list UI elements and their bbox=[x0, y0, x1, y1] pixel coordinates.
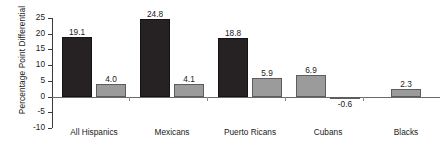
x-category-label-blacks: Blacks bbox=[394, 127, 418, 137]
bar-puerto-ricans-dark: 18.8 bbox=[218, 38, 248, 97]
bar-value-puerto-ricans-light: 5.9 bbox=[261, 68, 273, 78]
bar-value-puerto-ricans-dark: 18.8 bbox=[225, 28, 241, 38]
y-tick-label-20: 20 bbox=[36, 28, 45, 38]
bar-mexicans-light: 4.1 bbox=[174, 84, 204, 97]
y-tick-label-neg5: -5 bbox=[38, 106, 45, 116]
y-tick-neg10: -10 bbox=[48, 128, 52, 129]
bar-value-all-hispanics-dark: 19.1 bbox=[69, 27, 85, 37]
y-tick-label-10: 10 bbox=[36, 59, 45, 69]
y-tick-label-neg10: -10 bbox=[33, 122, 45, 132]
bar-chart: Percentage Point Differential 25 20 15 1… bbox=[0, 0, 448, 154]
y-tick-label-5: 5 bbox=[40, 75, 45, 85]
bar-cubans-negative: -0.6 bbox=[330, 97, 360, 99]
bar-value-blacks-light: 2.3 bbox=[400, 79, 412, 89]
bar-group-mexicans: 24.8 4.1 bbox=[130, 18, 207, 128]
bar-group-cubans: 6.9 -0.6 bbox=[286, 18, 363, 128]
bar-all-hispanics-light: 4.0 bbox=[96, 84, 126, 97]
bar-value-cubans-negative: -0.6 bbox=[338, 99, 352, 109]
bar-value-mexicans-light: 4.1 bbox=[183, 74, 195, 84]
bar-group-puerto-ricans: 18.8 5.9 bbox=[208, 18, 285, 128]
bar-mexicans-dark: 24.8 bbox=[140, 19, 170, 97]
y-tick-label-25: 25 bbox=[36, 12, 45, 22]
x-category-label-puerto-ricans: Puerto Ricans bbox=[224, 127, 276, 137]
x-category-label-all-hispanics: All Hispanics bbox=[70, 127, 118, 137]
bar-value-cubans-light: 6.9 bbox=[305, 65, 317, 75]
bar-puerto-ricans-light: 5.9 bbox=[252, 78, 282, 97]
bar-cubans-light: 6.9 bbox=[296, 75, 326, 97]
bar-value-all-hispanics-light: 4.0 bbox=[105, 74, 117, 84]
bar-blacks-light: 2.3 bbox=[391, 89, 421, 96]
y-axis-title: Percentage Point Differential bbox=[17, 0, 27, 124]
x-category-label-cubans: Cubans bbox=[314, 127, 343, 137]
plot-area: 25 20 15 10 5 0 -5 -10 19.1 bbox=[52, 18, 440, 128]
bar-group-all-hispanics: 19.1 4.0 bbox=[52, 18, 129, 128]
x-category-label-mexicans: Mexicans bbox=[154, 127, 189, 137]
y-tick-label-15: 15 bbox=[36, 43, 45, 53]
y-tick-label-0: 0 bbox=[40, 91, 45, 101]
bar-all-hispanics-dark: 19.1 bbox=[62, 37, 92, 97]
bar-value-mexicans-dark: 24.8 bbox=[147, 9, 163, 19]
bar-group-blacks: 2.3 bbox=[364, 18, 440, 128]
